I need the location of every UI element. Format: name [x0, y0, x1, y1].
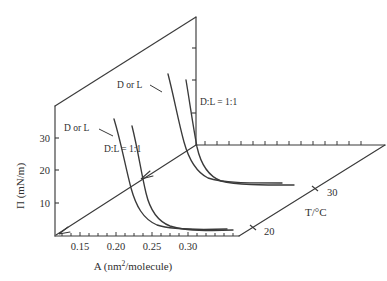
x-axis-ticks-back [205, 141, 361, 145]
x-tick-labels: 0.15 0.20 0.25 0.30 [71, 241, 197, 252]
y-axis-title: Π (mN/m) [14, 163, 27, 209]
x-tick-label-025: 0.25 [143, 241, 161, 252]
curve-front-dl-ratio [132, 126, 233, 231]
z-axis-bottom [239, 145, 385, 236]
chart-svg: 30 20 10 0.15 0.20 0.25 0.30 20 30 Π (mN… [0, 0, 387, 281]
chart-figure: 30 20 10 0.15 0.20 0.25 0.30 20 30 Π (mN… [0, 0, 387, 281]
leader-front-d-or-l [99, 129, 113, 136]
y-tick-label-10: 10 [40, 198, 51, 209]
x-axis-title-suffix: /molecule) [125, 260, 172, 273]
isotherm-curves-back [168, 74, 294, 185]
annotation-back-d-or-l: D or L [117, 80, 143, 90]
annotation-leaders [99, 85, 162, 136]
axes-frame [55, 17, 385, 236]
isotherm-curves-front [114, 119, 233, 231]
y-axis-ticks-back [192, 48, 196, 113]
y-tick-label-20: 20 [40, 165, 51, 176]
z-tick-label-20: 20 [264, 226, 275, 237]
x-axis-ticks-front [62, 232, 233, 236]
y-axis-ticks [55, 138, 59, 203]
x-tick-label-030: 0.30 [179, 241, 197, 252]
leader-back-d-or-l [150, 85, 162, 92]
z-axis-origin-diagonal [56, 145, 196, 235]
curve-back-d-or-l [168, 74, 282, 183]
annotation-front-d-or-l: D or L [64, 123, 90, 133]
y-tick-label-30: 30 [40, 133, 51, 144]
x-axis-title-prefix: A (nm [94, 260, 122, 273]
arrowhead-lower [59, 227, 70, 234]
annotation-front-dl-ratio: D:L = 1:1 [104, 144, 141, 154]
curve-back-dl-ratio [186, 80, 294, 185]
x-axis-title: A (nm2/molecule) [94, 259, 173, 273]
panel-top-edge [55, 17, 196, 106]
y-axis-title-text: Π (mN/m) [14, 163, 27, 209]
annotation-back-dl-ratio: D:L = 1:1 [200, 97, 237, 107]
z-tick-label-30: 30 [327, 187, 338, 198]
x-tick-label-015: 0.15 [71, 241, 89, 252]
z-axis-title: T/°C [305, 206, 327, 218]
x-tick-label-020: 0.20 [107, 241, 125, 252]
y-tick-labels: 30 20 10 [40, 133, 51, 209]
